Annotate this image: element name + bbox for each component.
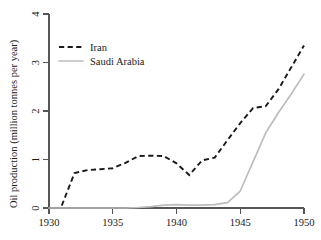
y-tick-group xyxy=(43,14,49,208)
x-tick-labels: 1930 1935 1940 1945 1950 xyxy=(39,217,315,228)
y-tick-label: 0 xyxy=(30,205,41,210)
chart-legend: Iran Saudi Arabia xyxy=(59,42,145,67)
oil-production-chart: Oil production (million tonnes per year)… xyxy=(0,0,321,240)
y-tick-label: 4 xyxy=(30,11,41,17)
chart-canvas: Oil production (million tonnes per year)… xyxy=(0,0,321,240)
y-tick-label: 1 xyxy=(30,157,41,162)
x-tick-group xyxy=(49,208,304,214)
x-tick-label: 1930 xyxy=(39,217,60,228)
x-tick-label: 1940 xyxy=(166,217,187,228)
series-line-iran xyxy=(62,46,304,206)
y-axis-label: Oil production (million tonnes per year) xyxy=(8,39,20,208)
series-line-saudi-arabia xyxy=(49,74,304,208)
y-tick-label: 3 xyxy=(30,60,41,65)
legend-label-saudi-arabia: Saudi Arabia xyxy=(90,56,145,67)
x-tick-label: 1945 xyxy=(230,217,251,228)
legend-label-iran: Iran xyxy=(90,42,108,53)
y-tick-labels: 0 1 2 3 4 xyxy=(30,11,41,211)
x-tick-label: 1950 xyxy=(294,217,315,228)
y-tick-label: 2 xyxy=(30,108,41,113)
x-tick-label: 1935 xyxy=(102,217,123,228)
